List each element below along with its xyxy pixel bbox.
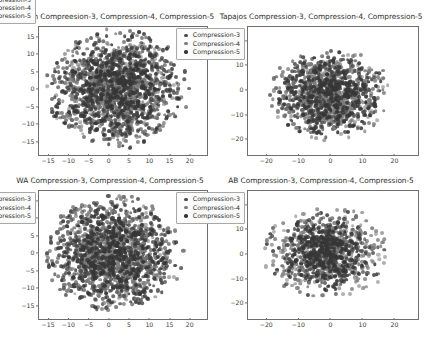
legend-tapajos[interactable]: Compression-3 Compression-4 Compression-… <box>176 28 245 60</box>
scatter-point <box>275 254 279 258</box>
scatter-point <box>367 245 371 249</box>
y-tick-label: −10 <box>230 276 247 282</box>
scatter-point <box>357 272 361 276</box>
scatter-point <box>117 257 121 261</box>
x-tick-label: 20 <box>391 318 399 328</box>
scatter-point <box>299 262 303 266</box>
scatter-point <box>371 251 375 255</box>
y-tick-label: −20 <box>230 300 247 306</box>
scatter-point <box>167 231 171 235</box>
scatter-point <box>88 75 92 79</box>
scatter-point <box>120 97 124 101</box>
x-tick-label: −10 <box>62 154 75 164</box>
scatter-point <box>336 130 340 134</box>
scatter-point <box>381 76 385 80</box>
legend-label-compression-4: Compression-4 <box>0 205 31 211</box>
scatter-point <box>311 294 315 298</box>
scatter-point <box>379 79 383 83</box>
scatter-point <box>365 270 369 274</box>
scatter-point <box>136 262 140 266</box>
scatter-point <box>107 130 111 134</box>
scatter-point <box>117 293 121 297</box>
scatter-point <box>282 221 286 225</box>
scatter-point <box>358 237 362 241</box>
scatter-point <box>311 93 315 97</box>
scatter-point <box>138 278 142 282</box>
x-tick-label: 0 <box>328 318 332 328</box>
scatter-point <box>107 143 111 147</box>
legend-marker-compression-5 <box>184 214 187 217</box>
scatter-point <box>323 287 327 291</box>
legend-maranon[interactable]: Compression-3 Compression-4 Compression-… <box>0 0 36 24</box>
scatter-point <box>298 282 302 286</box>
scatter-point <box>327 62 331 66</box>
legend-label-compression-3: Compression-3 <box>193 32 240 38</box>
scatter-point <box>359 107 363 111</box>
legend-ab[interactable]: Compression-3 Compression-4 Compression-… <box>176 192 245 224</box>
x-tick-label: 0 <box>328 154 332 164</box>
legend-item-compression-4[interactable]: Compression-4 <box>0 4 31 12</box>
scatter-point <box>141 116 145 120</box>
legend-item-compression-3[interactable]: Compression-3 <box>0 196 31 204</box>
scatter-point <box>69 232 72 235</box>
scatter-point <box>109 102 113 106</box>
scatter-point <box>324 81 328 85</box>
scatter-point <box>377 258 380 261</box>
scatter-point <box>175 277 179 281</box>
scatter-point <box>332 61 336 65</box>
scatter-point <box>140 223 144 227</box>
legend-item-compression-5[interactable]: Compression-5 <box>180 48 240 56</box>
scatter-point <box>85 121 89 125</box>
scatter-point <box>115 204 119 208</box>
scatter-point <box>64 293 68 297</box>
scatter-point <box>306 120 310 124</box>
scatter-point <box>314 104 318 108</box>
scatter-point <box>74 88 78 92</box>
x-tick-label: −10 <box>292 154 305 164</box>
scatter-point <box>149 289 153 293</box>
scatter-point <box>155 126 159 130</box>
scatter-point <box>82 248 86 252</box>
scatter-point <box>99 98 103 102</box>
legend-item-compression-4[interactable]: Compression-4 <box>180 204 240 212</box>
scatter-point <box>381 69 385 73</box>
scatter-point <box>308 277 312 281</box>
legend-item-compression-4[interactable]: Compression-4 <box>0 204 31 212</box>
scatter-point <box>174 75 178 79</box>
scatter-point <box>326 228 330 232</box>
scatter-point <box>359 53 363 57</box>
scatter-point <box>150 223 154 227</box>
scatter-point <box>357 61 361 65</box>
scatter-point <box>319 235 323 239</box>
scatter-point <box>105 295 109 299</box>
y-tick-label: 5 <box>31 68 38 74</box>
scatter-point <box>60 59 64 63</box>
scatter-point <box>89 96 93 100</box>
scatter-point <box>93 41 97 45</box>
scatter-point <box>171 89 175 93</box>
scatter-point <box>320 132 323 135</box>
legend-item-compression-4[interactable]: Compression-4 <box>180 40 240 48</box>
legend-item-compression-3[interactable]: Compression-3 <box>180 196 240 204</box>
y-tick-label: −5 <box>25 104 38 110</box>
legend-marker-compression-3 <box>184 198 187 201</box>
scatter-point <box>280 106 284 110</box>
scatter-point <box>134 276 138 280</box>
scatter-point <box>61 219 65 223</box>
y-tick-label: 10 <box>27 51 38 57</box>
scatter-point <box>103 51 107 55</box>
scatter-point <box>296 220 300 224</box>
legend-item-compression-3[interactable]: Compression-3 <box>180 32 240 40</box>
scatter-point <box>329 95 333 99</box>
scatter-point <box>272 229 276 233</box>
scatter-point <box>71 97 75 101</box>
legend-item-compression-5[interactable]: Compression-5 <box>0 12 31 20</box>
scatter-point <box>322 293 326 297</box>
legend-item-compression-5[interactable]: Compression-5 <box>0 212 31 220</box>
legend-item-compression-5[interactable]: Compression-5 <box>180 212 240 220</box>
scatter-point <box>76 257 80 261</box>
scatter-point <box>55 61 59 65</box>
scatter-point <box>313 99 317 103</box>
y-tick-label: −20 <box>230 136 247 142</box>
legend-wa[interactable]: Compression-3 Compression-4 Compression-… <box>0 192 36 224</box>
